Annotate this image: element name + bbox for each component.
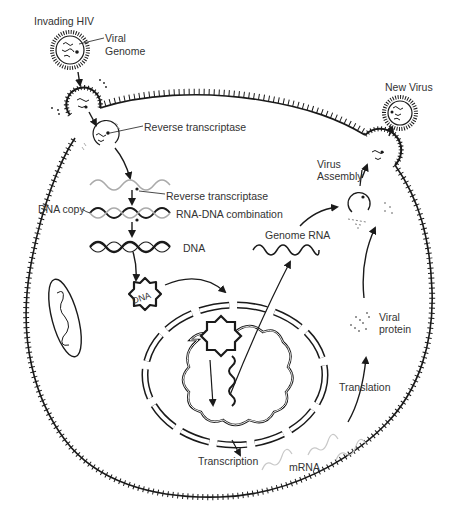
label-dna: DNA xyxy=(183,242,205,254)
hiv-diagram xyxy=(0,0,453,519)
label-viral-protein-2: protein xyxy=(379,323,411,335)
cell-membrane xyxy=(26,92,432,497)
label-dna-copy: DNA copy xyxy=(38,203,85,215)
budding-virus xyxy=(365,129,401,165)
label-genome-rna: Genome RNA xyxy=(265,229,330,241)
label-virus: Virus xyxy=(317,158,341,170)
label-transcription: Transcription xyxy=(198,455,258,467)
rna-dna-hybrid xyxy=(82,208,170,222)
label-reverse-transcriptase-1: Reverse transcriptase xyxy=(144,121,246,133)
label-viral: Viral xyxy=(105,32,126,44)
label-assembly: Assembly xyxy=(317,170,363,182)
label-new-virus: New Virus xyxy=(385,81,433,93)
label-viral-protein-1: Viral xyxy=(379,311,400,323)
rna-strand xyxy=(90,180,170,190)
assembling-virus xyxy=(348,193,393,228)
invading-virus xyxy=(52,32,104,68)
label-invading-hiv: Invading HIV xyxy=(34,15,94,27)
dna-double-strand xyxy=(90,242,170,252)
viral-protein xyxy=(350,312,370,332)
nucleus xyxy=(145,305,325,445)
mitochondrion xyxy=(42,276,88,360)
uncoated-genome xyxy=(82,121,143,150)
label-mrna: mRNA xyxy=(289,461,320,473)
label-reverse-transcriptase-2: Reverse transcriptase xyxy=(166,190,268,202)
label-translation: Translation xyxy=(339,381,391,393)
label-genome: Genome xyxy=(105,45,145,57)
label-rna-dna-combination: RNA-DNA combination xyxy=(176,208,283,220)
new-virus xyxy=(384,97,416,129)
entering-virus xyxy=(51,79,107,115)
genome-rna xyxy=(253,245,319,255)
